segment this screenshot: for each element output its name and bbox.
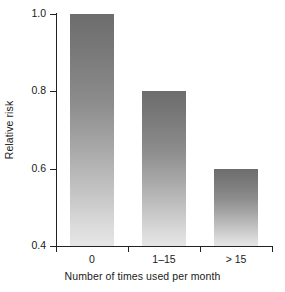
x-axis-tick-mark (56, 247, 57, 252)
x-axis-tick-label: 0 (57, 254, 127, 265)
x-axis-tick-label: > 15 (201, 254, 271, 265)
x-axis-tick-mark (272, 247, 273, 252)
x-axis-line (56, 246, 273, 247)
x-axis-title: Number of times used per month (0, 270, 285, 282)
bar (214, 169, 258, 246)
y-axis-tick-label: 0.8 (6, 85, 46, 96)
x-axis-tick-mark (200, 247, 201, 252)
plot-area (56, 14, 272, 246)
bar (70, 14, 114, 246)
y-axis-tick-label: 1.0 (6, 8, 46, 19)
bar (142, 91, 186, 246)
y-axis-tick-label: 0.6 (6, 163, 46, 174)
x-axis-tick-mark (128, 247, 129, 252)
y-axis-title-text: Relative risk (3, 101, 15, 159)
bar-chart-figure: Relative risk 0.40.60.81.0 01–15> 15 Num… (0, 0, 285, 292)
y-axis-tick-label: 0.4 (6, 240, 46, 251)
x-axis-tick-label: 1–15 (129, 254, 199, 265)
